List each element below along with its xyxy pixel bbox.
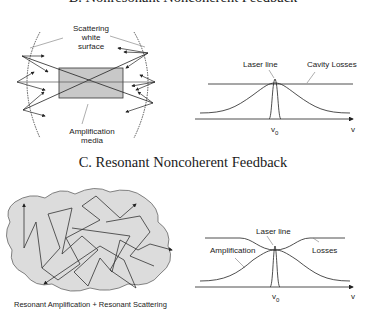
laser-line-peak-c — [270, 246, 280, 287]
x-tick-v0-c: v0 — [272, 292, 279, 305]
amplification-label: Amplification — [210, 246, 255, 255]
x-tick-v0-b: v0 — [271, 125, 278, 138]
random-scattering-diagram — [0, 180, 185, 300]
left-scattering-surface — [27, 32, 40, 138]
scattering-surface-label: Scattering white surface — [66, 24, 116, 51]
spectrum-plot-c — [195, 200, 366, 290]
section-c-title: C. Resonant Noncoherent Feedback — [0, 154, 366, 171]
laser-line-label-b: Laser line — [243, 60, 278, 69]
x-axis-label-c: v — [351, 292, 355, 301]
spectrum-plot-b — [195, 60, 366, 140]
scattering-cloud — [6, 188, 170, 291]
losses-label: Losses — [312, 246, 337, 255]
laser-line-peak — [269, 79, 281, 119]
gain-curve — [200, 83, 350, 113]
amplification-media-label: Amplification media — [62, 127, 122, 145]
cavity-losses-label: Cavity Losses — [307, 60, 357, 69]
laser-line-label-c: Laser line — [256, 227, 291, 236]
cloud-caption: Resonant Amplification + Resonant Scatte… — [14, 300, 167, 309]
x-axis-label-b: v — [351, 125, 355, 134]
